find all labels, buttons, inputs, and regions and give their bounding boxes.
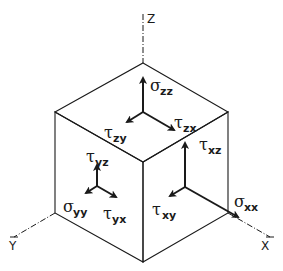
- label-sigma-xx: σ xx: [234, 192, 258, 214]
- label-tau-zx: τ zx: [174, 113, 197, 135]
- label-tau-yz: τ yz: [86, 147, 109, 169]
- label-sigma-yy: σ yy: [63, 197, 87, 219]
- tau-zx-arrow: [143, 112, 174, 130]
- svg-text:xz: xz: [208, 144, 222, 157]
- sigma-xx-arrow: [185, 187, 238, 217]
- tau-zy-arrow: [127, 112, 143, 122]
- tau-yx-arrow: [97, 186, 116, 197]
- svg-text:xx: xx: [244, 201, 258, 214]
- svg-text:zx: zx: [183, 122, 197, 135]
- svg-text:zz: zz: [160, 85, 173, 98]
- label-sigma-zz: σ zz: [150, 76, 173, 98]
- stress-cube-diagram: Z Y X σ zz τ zy τ zx τ yz: [0, 0, 283, 271]
- svg-text:τ: τ: [152, 200, 161, 219]
- svg-text:yz: yz: [95, 156, 109, 169]
- left-face-stresses: [86, 165, 116, 197]
- z-axis-label: Z: [147, 12, 155, 26]
- label-tau-yx: τ yx: [103, 204, 126, 226]
- svg-text:τ: τ: [103, 204, 112, 223]
- coordinate-axes: [14, 14, 270, 237]
- svg-text:τ: τ: [199, 135, 208, 154]
- label-tau-zy: τ zy: [104, 123, 127, 145]
- x-axis: [228, 213, 270, 237]
- svg-text:τ: τ: [104, 123, 113, 142]
- svg-text:zy: zy: [113, 132, 127, 145]
- svg-text:yy: yy: [73, 206, 87, 219]
- x-axis-label: X: [261, 239, 269, 253]
- cube: [55, 63, 228, 262]
- label-tau-xz: τ xz: [199, 135, 222, 157]
- label-tau-xy: τ xy: [152, 200, 176, 222]
- y-axis: [14, 213, 55, 237]
- sigma-yy-arrow: [86, 186, 97, 193]
- svg-text:yx: yx: [112, 213, 126, 226]
- tau-xy-arrow: [170, 187, 185, 196]
- y-axis-label: Y: [8, 239, 17, 253]
- svg-text:τ: τ: [174, 113, 183, 132]
- svg-text:xy: xy: [162, 209, 176, 222]
- svg-text:τ: τ: [86, 147, 95, 166]
